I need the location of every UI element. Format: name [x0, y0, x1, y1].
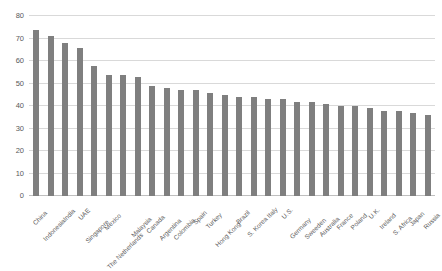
x-axis-tick-label: Italy	[266, 206, 279, 219]
bar-slot	[203, 16, 218, 196]
bar-series	[29, 16, 435, 196]
bar[interactable]	[338, 106, 344, 196]
y-axis-tick-label: 60	[16, 57, 24, 65]
bar-slot	[29, 16, 44, 196]
y-axis-tick-label: 40	[16, 102, 24, 110]
bar-slot	[218, 16, 233, 196]
x-axis: ChinaIndonesiaIndiaUAESingaporeMexicoThe…	[29, 198, 435, 259]
y-axis-tick-label: 20	[16, 147, 24, 155]
x-axis-tick-label: Brazil	[236, 210, 252, 226]
bar[interactable]	[425, 115, 431, 196]
bar[interactable]	[265, 99, 271, 196]
bar-slot	[160, 16, 175, 196]
bar[interactable]	[251, 97, 257, 196]
bar[interactable]	[236, 97, 242, 196]
bar[interactable]	[106, 75, 112, 197]
bar[interactable]	[91, 66, 97, 197]
bar-slot	[174, 16, 189, 196]
x-axis-tick-label: UAE	[77, 207, 91, 221]
bar[interactable]	[352, 106, 358, 196]
bar-slot	[102, 16, 117, 196]
x-axis-tick-label: Indonesia	[42, 218, 67, 243]
bar[interactable]	[396, 111, 402, 197]
bar[interactable]	[193, 90, 199, 196]
bar-slot	[131, 16, 146, 196]
bar-slot	[392, 16, 407, 196]
bar-slot	[189, 16, 204, 196]
bar[interactable]	[294, 102, 300, 197]
bar-slot	[305, 16, 320, 196]
bar[interactable]	[367, 108, 373, 196]
y-axis-tick-label: 10	[16, 170, 24, 178]
bar-slot	[421, 16, 436, 196]
bar[interactable]	[48, 36, 54, 196]
x-axis-tick-label: India	[62, 208, 77, 223]
x-axis-tick-label: Mexico	[103, 213, 122, 232]
bar[interactable]	[323, 104, 329, 196]
bar[interactable]	[62, 43, 68, 196]
y-axis-tick-label: 30	[16, 125, 24, 133]
bar-slot	[232, 16, 247, 196]
bar-slot	[377, 16, 392, 196]
x-axis-tick-label: S. Korea	[246, 216, 268, 238]
y-axis: 01020304050607080	[0, 0, 29, 212]
bar[interactable]	[77, 48, 83, 197]
x-axis-tick-label: U.S.	[281, 207, 295, 221]
bar-slot	[44, 16, 59, 196]
bar-slot	[319, 16, 334, 196]
bar-slot	[334, 16, 349, 196]
bar-slot	[276, 16, 291, 196]
bar-slot	[247, 16, 262, 196]
bar[interactable]	[381, 111, 387, 197]
bar[interactable]	[280, 99, 286, 196]
y-axis-tick-label: 80	[16, 12, 24, 20]
x-axis-tick-label: The Netherlands	[106, 232, 145, 271]
bar-slot	[73, 16, 88, 196]
bar-slot	[116, 16, 131, 196]
bar[interactable]	[207, 93, 213, 197]
y-axis-tick-label: 0	[20, 192, 24, 200]
bar-slot	[87, 16, 102, 196]
bar[interactable]	[309, 102, 315, 197]
bar[interactable]	[135, 77, 141, 196]
bar-slot	[406, 16, 421, 196]
y-axis-tick-label: 70	[16, 35, 24, 43]
y-axis-tick-label: 50	[16, 80, 24, 88]
bar[interactable]	[222, 95, 228, 196]
bar-slot	[58, 16, 73, 196]
bar-slot	[290, 16, 305, 196]
bar[interactable]	[149, 86, 155, 196]
bar-slot	[261, 16, 276, 196]
x-axis-tick-label: Hong Kong	[214, 221, 242, 249]
bar-slot	[145, 16, 160, 196]
bar[interactable]	[164, 88, 170, 196]
bar[interactable]	[178, 90, 184, 196]
x-axis-tick-label: China	[32, 210, 49, 227]
bar[interactable]	[410, 113, 416, 196]
bar-slot	[363, 16, 378, 196]
bar[interactable]	[33, 30, 39, 197]
bar[interactable]	[120, 75, 126, 197]
bar-slot	[348, 16, 363, 196]
x-axis-tick-label: U.K.	[368, 207, 382, 221]
